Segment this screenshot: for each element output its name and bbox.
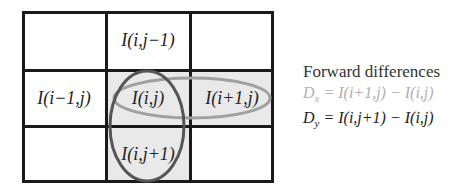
grid-divider-h1 [22, 69, 274, 72]
grid-border-left [22, 11, 25, 183]
cell-middle-center: I(i,j) [106, 70, 190, 126]
cell-bottom-center: I(i,j+1) [106, 126, 190, 183]
legend: Forward differences Dx = I(i+1,j) − I(i,… [303, 62, 440, 133]
grid-border-top [22, 11, 274, 14]
cell-label: I(i,j+1) [121, 144, 175, 165]
cell-label: I(i,j) [132, 88, 164, 109]
pixel-grid: I(i,j−1) I(i−1,j) I(i,j) I(i+1,j) I(i,j+… [22, 11, 274, 183]
grid-divider-v1 [105, 11, 108, 183]
formula-dy: Dy = I(i,j+1) − I(i,j) [303, 108, 440, 133]
dx-expression: = I(i+1,j) − I(i,j) [323, 84, 433, 101]
dx-symbol: D [303, 84, 315, 101]
dy-expression: = I(i,j+1) − I(i,j) [323, 109, 433, 126]
dy-subscript: y [315, 117, 320, 129]
cell-middle-left: I(i−1,j) [22, 70, 106, 126]
dy-symbol: D [303, 109, 315, 126]
grid-border-bottom [22, 180, 274, 183]
grid-border-right [271, 11, 274, 183]
cell-middle-right: I(i+1,j) [190, 70, 274, 126]
grid-divider-v2 [189, 11, 192, 183]
cell-label: I(i−1,j) [37, 88, 91, 109]
formula-dx: Dx = I(i+1,j) − I(i,j) [303, 83, 440, 108]
cell-label: I(i+1,j) [205, 88, 259, 109]
cell-label: I(i,j−1) [121, 30, 175, 51]
grid-divider-h2 [22, 125, 274, 128]
cell-top-center: I(i,j−1) [106, 11, 190, 70]
legend-title: Forward differences [303, 62, 440, 82]
dx-subscript: x [315, 92, 320, 104]
